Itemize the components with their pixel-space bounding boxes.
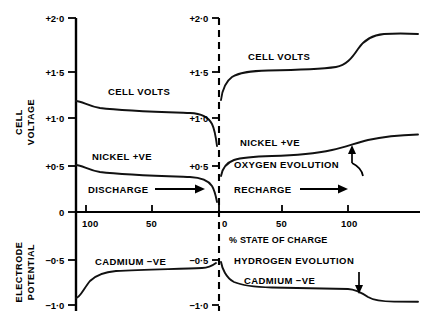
left-ytick-0-5: +0·5	[46, 161, 65, 172]
left-ytick-1-0: +1·0	[46, 113, 64, 124]
label-oxygen-evolution: OXYGEN EVOLUTION	[234, 159, 339, 170]
label-cadmium-discharge: CADMIUM −VE	[95, 256, 166, 267]
left-ytick-1-5: +1·5	[46, 67, 65, 78]
figure-root: +2·0 +1·5 +1·0 +0·5 0 −0·5 −1·0 +2·0 +1·…	[0, 0, 427, 327]
label-cell-volts-discharge: CELL VOLTS	[108, 86, 170, 97]
center-ytick-1-0: +1·0	[190, 113, 208, 124]
label-discharge-direction: DISCHARGE	[88, 184, 149, 195]
xtick-right-100: 100	[341, 218, 357, 229]
y-axis-title-cell-voltage-line1: CELL	[14, 109, 24, 135]
label-cadmium-recharge: CADMIUM −VE	[244, 275, 315, 286]
y-axis-title-cell-voltage-line2: VOLTAGE	[26, 99, 36, 145]
y-axis-title-electrode-potential-line2: POTENTIAL	[26, 244, 36, 300]
center-ytick-neg0-5: −0·5	[190, 255, 209, 266]
center-ytick-2-0: +2·0	[190, 13, 208, 24]
center-ytick-0-5: +0·5	[190, 161, 209, 172]
label-recharge-direction: RECHARGE	[234, 184, 292, 195]
label-nickel-recharge: NICKEL +VE	[240, 137, 300, 148]
xtick-left-50: 50	[146, 218, 157, 229]
xtick-left-100: 100	[82, 218, 98, 229]
discharge-arrow-icon	[155, 185, 205, 194]
x-axis-title: % STATE OF CHARGE	[229, 235, 328, 245]
left-ytick-0: 0	[59, 207, 64, 218]
label-cell-volts-recharge: CELL VOLTS	[248, 51, 310, 62]
left-ytick-neg0-5: −0·5	[46, 255, 65, 266]
left-ytick-2-0: +2·0	[46, 13, 64, 24]
recharge-arrow-icon	[300, 185, 348, 194]
xtick-right-50: 50	[276, 218, 287, 229]
oxygen-evolution-arrow-icon	[348, 145, 363, 176]
xtick-center-0: 0	[222, 218, 227, 229]
left-ytick-neg1-0: −1·0	[46, 300, 64, 311]
curve-cell-volts-recharge	[221, 33, 418, 100]
y-axis-title-electrode-potential-line1: ELECTRODE	[14, 242, 24, 303]
center-ytick-1-5: +1·5	[190, 67, 209, 78]
chart-svg: +2·0 +1·5 +1·0 +0·5 0 −0·5 −1·0 +2·0 +1·…	[0, 0, 427, 327]
center-ytick-neg1-0: −1·0	[190, 300, 208, 311]
curve-cadmium-discharge	[76, 263, 216, 298]
label-hydrogen-evolution: HYDROGEN EVOLUTION	[234, 255, 354, 266]
label-nickel-discharge: NICKEL +VE	[92, 151, 152, 162]
